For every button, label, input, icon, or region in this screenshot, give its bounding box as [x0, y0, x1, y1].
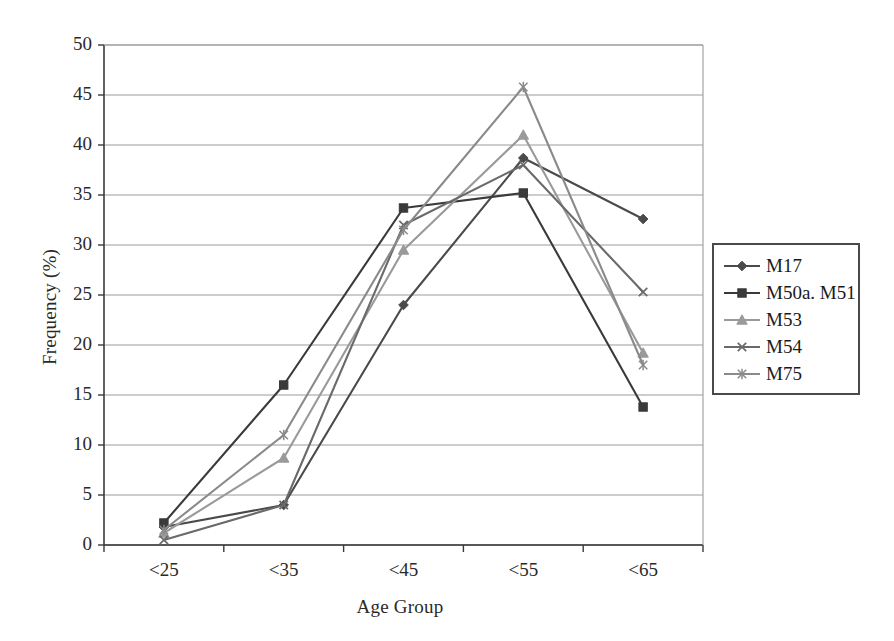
- y-tick-label: 20: [46, 333, 92, 355]
- x-tick-label: <45: [359, 559, 449, 581]
- y-tick-label: 50: [46, 33, 92, 55]
- x-tick-label: <25: [119, 559, 209, 581]
- legend-label: M53: [766, 309, 802, 331]
- legend-label: M50a. M51: [766, 282, 856, 304]
- marker-square: [639, 403, 647, 411]
- legend-item-m17[interactable]: M17: [722, 253, 802, 279]
- marker-triangle: [279, 453, 289, 462]
- legend-label: M17: [766, 255, 802, 277]
- y-tick-label: 45: [46, 83, 92, 105]
- legend-label: M54: [766, 336, 802, 358]
- x-tick-label: <35: [239, 559, 329, 581]
- legend-item-m75[interactable]: M75: [722, 361, 802, 387]
- series-m54: [160, 161, 648, 544]
- legend-item-m54[interactable]: M54: [722, 334, 802, 360]
- y-tick-label: 25: [46, 283, 92, 305]
- x-tick-label: <55: [478, 559, 568, 581]
- y-tick-label: 10: [46, 433, 92, 455]
- marker-square: [738, 289, 746, 297]
- line-chart: Frequency (%) Age Group 0510152025303540…: [0, 0, 894, 641]
- legend-marker-diamond-icon: [722, 259, 762, 273]
- legend-marker-asterisk-icon: [722, 367, 762, 381]
- legend-item-m50a-m51[interactable]: M50a. M51: [722, 280, 856, 306]
- marker-diamond: [737, 261, 747, 271]
- legend-marker-x-icon: [722, 340, 762, 354]
- y-tick-label: 15: [46, 383, 92, 405]
- marker-triangle: [518, 130, 528, 139]
- x-axis-title: Age Group: [300, 596, 500, 618]
- series-line: [164, 158, 643, 527]
- x-tick-label: <65: [598, 559, 688, 581]
- legend-item-m53[interactable]: M53: [722, 307, 802, 333]
- legend-label: M75: [766, 363, 802, 385]
- legend-marker-triangle-icon: [722, 313, 762, 327]
- y-tick-label: 40: [46, 133, 92, 155]
- marker-square: [519, 189, 527, 197]
- marker-square: [280, 381, 288, 389]
- y-tick-label: 35: [46, 183, 92, 205]
- y-tick-label: 30: [46, 233, 92, 255]
- legend-marker-square-icon: [722, 286, 762, 300]
- legend: M17M50a. M51M53M54M75: [712, 243, 860, 395]
- y-tick-label: 5: [46, 483, 92, 505]
- marker-square: [399, 204, 407, 212]
- marker-diamond: [638, 214, 648, 224]
- y-tick-label: 0: [46, 533, 92, 555]
